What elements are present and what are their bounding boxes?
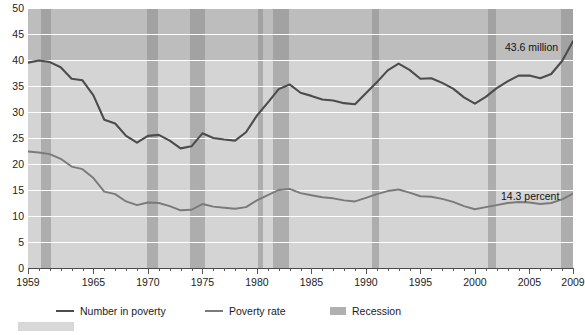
x-axis-tick	[268, 268, 269, 271]
x-axis-tick-label: 1990	[354, 276, 377, 288]
x-axis-tick	[61, 268, 62, 271]
legend-item-1[interactable]: Number in poverty	[56, 305, 166, 317]
x-axis-tick	[93, 268, 94, 274]
x-axis-tick	[301, 268, 302, 271]
y-axis-tick-label: 40	[0, 54, 24, 66]
plot-wrapper: 05101520253035404550 1959196519701975198…	[0, 0, 583, 290]
x-axis-tick	[224, 268, 225, 271]
legend-swatch-icon	[330, 307, 346, 315]
legend-item-3[interactable]: Recession	[330, 305, 401, 317]
x-axis-tick	[126, 268, 127, 271]
x-axis-tick	[377, 268, 378, 271]
x-axis-tick-label: 1995	[409, 276, 432, 288]
series-line-number-in-poverty	[28, 41, 573, 148]
y-axis-tick-label: 0	[0, 262, 24, 274]
legend-line-icon	[205, 310, 223, 312]
x-axis-tick-label: 1975	[191, 276, 214, 288]
x-axis-tick	[159, 268, 160, 271]
x-axis-tick	[344, 268, 345, 271]
x-axis-tick	[104, 268, 105, 271]
legend-label: Number in poverty	[80, 305, 166, 317]
plot-area	[28, 8, 573, 268]
x-axis-tick-label: 1970	[136, 276, 159, 288]
x-axis-tick	[279, 268, 280, 271]
x-axis-tick	[388, 268, 389, 271]
x-axis-tick	[213, 268, 214, 271]
x-axis-tick	[486, 268, 487, 271]
legend-label: Poverty rate	[229, 305, 286, 317]
x-axis-tick	[83, 268, 84, 271]
x-axis-tick	[355, 268, 356, 271]
x-axis-tick	[573, 268, 574, 274]
y-axis-tick-label: 25	[0, 132, 24, 144]
x-axis-tick-label: 1959	[16, 276, 39, 288]
x-axis-tick	[497, 268, 498, 271]
y-axis-tick-label: 15	[0, 184, 24, 196]
x-axis-tick	[257, 268, 258, 274]
x-axis-tick	[246, 268, 247, 271]
x-axis-tick	[475, 268, 476, 274]
y-axis-tick-label: 30	[0, 106, 24, 118]
x-axis-tick-label: 1965	[82, 276, 105, 288]
x-axis-tick	[442, 268, 443, 271]
x-axis-tick-label: 2009	[561, 276, 584, 288]
x-axis-tick	[235, 268, 236, 271]
series-lines	[28, 8, 573, 268]
x-axis-tick	[333, 268, 334, 271]
x-axis-tick	[115, 268, 116, 271]
x-axis-tick	[420, 268, 421, 274]
series-line-poverty-rate	[28, 152, 573, 211]
x-axis-tick	[431, 268, 432, 271]
x-axis-tick-label: 2000	[463, 276, 486, 288]
x-axis-tick	[453, 268, 454, 271]
x-axis-tick	[72, 268, 73, 271]
annotation-poverty-rate: 14.3 percent	[501, 190, 559, 202]
x-axis-tick	[311, 268, 312, 274]
annotation-number-in-poverty: 43.6 million	[505, 41, 558, 53]
x-axis-tick	[366, 268, 367, 274]
x-axis-tick	[551, 268, 552, 271]
x-axis-tick	[28, 268, 29, 274]
x-axis-tick	[399, 268, 400, 271]
x-axis-tick	[50, 268, 51, 271]
x-axis-tick	[464, 268, 465, 271]
x-axis-tick	[148, 268, 149, 274]
y-axis-tick-label: 45	[0, 28, 24, 40]
x-axis-tick	[540, 268, 541, 271]
x-axis-tick	[508, 268, 509, 271]
x-axis-tick-label: 1980	[245, 276, 268, 288]
x-axis-tick	[202, 268, 203, 274]
x-axis-tick-label: 1985	[300, 276, 323, 288]
footer-swatch	[18, 322, 74, 331]
x-axis-tick	[181, 268, 182, 271]
x-axis-tick	[137, 268, 138, 271]
legend-line-icon	[56, 310, 74, 312]
x-axis-tick	[410, 268, 411, 271]
x-axis-tick	[192, 268, 193, 271]
x-axis-tick	[529, 268, 530, 274]
x-axis-tick-label: 2005	[518, 276, 541, 288]
y-axis-tick-label: 10	[0, 210, 24, 222]
x-axis-tick	[170, 268, 171, 271]
legend-label: Recession	[352, 305, 401, 317]
legend-item-2[interactable]: Poverty rate	[205, 305, 286, 317]
y-axis-tick-label: 50	[0, 2, 24, 14]
y-axis-tick-label: 5	[0, 236, 24, 248]
y-axis-tick-label: 35	[0, 80, 24, 92]
x-axis-tick	[290, 268, 291, 271]
x-axis-tick	[322, 268, 323, 271]
chart-legend: Number in povertyPoverty rateRecession	[0, 302, 583, 320]
x-axis-tick	[562, 268, 563, 271]
x-axis-tick	[519, 268, 520, 271]
x-axis-tick	[39, 268, 40, 271]
y-axis-tick-label: 20	[0, 158, 24, 170]
